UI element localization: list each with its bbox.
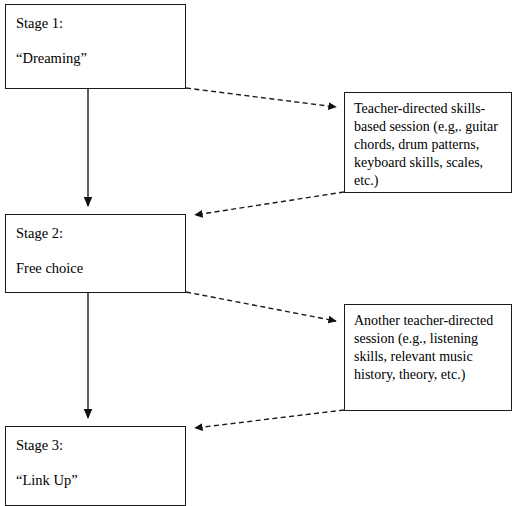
- stage-1-box[interactable]: Stage 1: “Dreaming”: [5, 4, 186, 89]
- stage-2-name: Free choice: [16, 261, 185, 276]
- connector-detail2-to-stage3: [195, 410, 344, 428]
- stage-1-name: “Dreaming”: [16, 51, 185, 66]
- connector-stage1-to-detail1: [186, 88, 336, 107]
- detail-2-box[interactable]: Another teacher-directed session (e.g., …: [344, 304, 512, 411]
- detail-1-text: Teacher-directed skills-based session (e…: [354, 100, 503, 190]
- detail-1-box[interactable]: Teacher-directed skills-based session (e…: [344, 92, 512, 193]
- stage-2-box[interactable]: Stage 2: Free choice: [5, 214, 186, 293]
- connector-detail1-to-stage2: [195, 192, 344, 215]
- connector-stage2-to-detail2: [186, 292, 336, 321]
- detail-2-text: Another teacher-directed session (e.g., …: [354, 312, 503, 384]
- stage-3-box[interactable]: Stage 3: “Link Up”: [5, 426, 186, 506]
- stage-3-name: “Link Up”: [16, 473, 185, 488]
- stage-3-label: Stage 3:: [16, 438, 185, 453]
- stage-2-label: Stage 2:: [16, 226, 185, 241]
- stage-1-label: Stage 1:: [16, 16, 185, 31]
